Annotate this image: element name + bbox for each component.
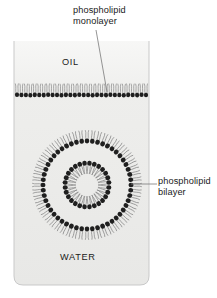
lipid-tail — [85, 230, 86, 239]
label-oil: OIL — [62, 57, 79, 67]
lipid-tail — [73, 84, 74, 94]
lipid-tail — [133, 84, 134, 94]
lipid-tail — [107, 84, 108, 94]
lipid-tail — [76, 84, 77, 94]
lipid-tail — [111, 84, 112, 94]
lipid-head — [19, 93, 23, 98]
lipid-tail — [127, 84, 128, 94]
lipid-tail — [96, 84, 97, 94]
lipid-tail — [122, 84, 123, 94]
lipid-tail — [102, 84, 103, 94]
lipid-tail — [147, 84, 148, 94]
lipid-tail — [105, 84, 106, 94]
lipid-tail — [33, 84, 34, 94]
lipid-tail — [84, 84, 85, 94]
lipid-tail — [49, 84, 50, 94]
lipid-tail — [62, 84, 63, 94]
lipid-tail — [45, 84, 46, 94]
lipid-tail — [120, 84, 121, 94]
lipid-tail — [88, 131, 89, 140]
lipid-tail — [56, 84, 57, 94]
lipid-tail — [140, 84, 141, 94]
lipid-tail — [40, 84, 41, 94]
lipid-tail — [69, 84, 70, 94]
lipid-tail — [27, 84, 28, 94]
lipid-head — [85, 227, 90, 232]
lipid-tail — [42, 84, 43, 94]
lipid-tail — [109, 84, 110, 94]
lipid-head — [85, 139, 90, 144]
lipid-tail — [93, 84, 94, 94]
lipid-tail — [145, 84, 146, 94]
oil-region — [14, 41, 149, 92]
lipid-tail — [89, 84, 90, 94]
lipid-tail — [78, 84, 79, 94]
lipid-head — [24, 93, 28, 98]
lipid-tail — [38, 84, 39, 94]
lipid-tail — [15, 84, 16, 94]
lipid-tail — [31, 84, 32, 94]
lipid-tail — [136, 84, 137, 94]
lipid-tail — [33, 186, 42, 187]
lipid-tail — [18, 84, 19, 94]
lipid-head — [144, 93, 148, 98]
lipid-head — [117, 93, 121, 98]
lipid-head — [86, 93, 90, 98]
lipid-tail — [80, 84, 81, 94]
label-phospholipid-bilayer: phospholipid bilayer — [158, 176, 211, 197]
lipid-tail — [51, 84, 52, 94]
lipid-head — [50, 93, 54, 98]
lipid-tail — [36, 84, 37, 94]
lipid-tail — [22, 84, 23, 94]
lipid-head — [129, 183, 134, 188]
lipid-tail — [118, 84, 119, 94]
lipid-head — [82, 93, 86, 98]
lipid-head — [113, 93, 117, 98]
phospholipid-diagram — [0, 0, 217, 298]
lipid-tail — [125, 84, 126, 94]
lipid-tail — [98, 84, 99, 94]
lipid-head — [37, 93, 41, 98]
lipid-head — [99, 93, 103, 98]
lipid-tail — [24, 84, 25, 94]
label-phospholipid-monolayer: phospholipid monolayer — [73, 5, 126, 26]
lipid-tail — [33, 183, 42, 184]
lipid-tail — [20, 84, 21, 94]
lipid-head — [55, 93, 59, 98]
lipid-tail — [53, 84, 54, 94]
lipid-tail — [64, 84, 65, 94]
lipid-head — [131, 93, 135, 98]
lipid-tail — [58, 84, 59, 94]
lipid-tail — [88, 230, 89, 239]
lipid-tail — [67, 84, 68, 94]
lipid-tail — [100, 84, 101, 94]
lipid-tail — [138, 84, 139, 94]
lipid-tail — [47, 84, 48, 94]
lipid-tail — [60, 84, 61, 94]
lipid-tail — [85, 131, 86, 140]
label-water: WATER — [60, 252, 96, 262]
lipid-tail — [129, 84, 130, 94]
lipid-tail — [87, 84, 88, 94]
lipid-tail — [82, 84, 83, 94]
lipid-tail — [29, 84, 30, 94]
lipid-tail — [131, 84, 132, 94]
lipid-tail — [132, 186, 141, 187]
lipid-tail — [91, 84, 92, 94]
lipid-tail — [116, 84, 117, 94]
lipid-tail — [142, 84, 143, 94]
lipid-tail — [113, 84, 114, 94]
lipid-head — [68, 93, 72, 98]
lipid-tail — [71, 84, 72, 94]
lipid-head — [41, 183, 46, 188]
